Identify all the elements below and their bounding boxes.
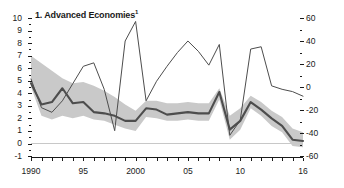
y-axis-right-tick — [300, 110, 304, 111]
y-axis-left-label: 4 — [17, 89, 22, 98]
y-axis-left-tick — [28, 118, 32, 119]
x-axis-tick — [198, 158, 199, 161]
y-axis-left-tick — [28, 131, 32, 132]
x-axis-label: 05 — [174, 167, 202, 176]
x-axis-tick — [125, 158, 126, 161]
y-axis-left-label: 5 — [17, 76, 22, 85]
x-axis-label: 10 — [226, 167, 254, 176]
x-axis-tick — [219, 158, 220, 161]
y-axis-left-minor-tick — [29, 125, 31, 126]
x-axis-tick — [272, 158, 273, 161]
y-axis-left-label: 3 — [17, 101, 22, 110]
y-axis-left-minor-tick — [29, 87, 31, 88]
y-axis-right-tick — [300, 156, 304, 157]
y-axis-right-label: 40 — [306, 37, 315, 46]
x-axis-label: 2000 — [122, 167, 150, 176]
x-axis-tick — [73, 158, 74, 161]
y-axis-left-tick — [28, 156, 32, 157]
y-axis-left-minor-tick — [29, 137, 31, 138]
y-axis-left-tick — [28, 144, 32, 145]
x-axis-tick — [178, 158, 179, 161]
y-axis-left-label: -1 — [14, 152, 22, 161]
y-axis-right-tick — [300, 87, 304, 88]
chart-panel: 1. Advanced Economies1 109876543210-1604… — [0, 0, 344, 188]
y-axis-left-minor-tick — [29, 49, 31, 50]
x-axis-tick — [240, 158, 241, 161]
x-axis-tick — [94, 158, 95, 161]
y-axis-left-tick — [28, 81, 32, 82]
y-axis-right-label: 60 — [306, 14, 315, 23]
y-axis-left-label: 6 — [17, 64, 22, 73]
x-axis-tick — [146, 158, 147, 161]
y-axis-left-label: 9 — [17, 26, 22, 35]
y-axis-left-label: 0 — [17, 139, 22, 148]
y-axis-right-minor-tick — [300, 122, 302, 123]
x-axis-tick — [261, 158, 262, 161]
x-axis-label: 1990 — [17, 167, 45, 176]
y-axis-left-minor-tick — [29, 150, 31, 151]
x-axis-tick — [293, 158, 294, 161]
y-axis-right-minor-tick — [300, 53, 302, 54]
y-axis-right-label: 20 — [306, 60, 315, 69]
y-axis-right-label: -20 — [306, 106, 318, 115]
zero-reference-line — [31, 143, 303, 144]
y-axis-left-tick — [28, 93, 32, 94]
y-axis-left-tick — [28, 56, 32, 57]
x-axis-label: 16 — [289, 167, 317, 176]
y-axis-left-tick — [28, 18, 32, 19]
y-axis-right-tick — [300, 41, 304, 42]
y-axis-right-label: -40 — [306, 129, 318, 138]
x-axis-tick — [42, 158, 43, 161]
x-axis-tick — [209, 158, 210, 161]
y-axis-left-label: 8 — [17, 39, 22, 48]
y-axis-left-minor-tick — [29, 37, 31, 38]
x-axis-tick — [52, 158, 53, 161]
x-axis-tick — [136, 158, 137, 161]
x-axis-tick — [83, 158, 84, 161]
y-axis-right-minor-tick — [300, 99, 302, 100]
y-axis-left-minor-tick — [29, 75, 31, 76]
y-axis-left-minor-tick — [29, 100, 31, 101]
x-axis-tick — [230, 158, 231, 161]
x-axis-tick — [62, 158, 63, 161]
y-axis-left-minor-tick — [29, 112, 31, 113]
x-axis-tick — [115, 158, 116, 161]
y-axis-right-tick — [300, 64, 304, 65]
y-axis-left-minor-tick — [29, 62, 31, 63]
y-axis-left-label: 2 — [17, 114, 22, 123]
x-axis-tick — [303, 158, 304, 161]
y-axis-right-label: -60 — [306, 152, 318, 161]
y-axis-right-tick — [300, 18, 304, 19]
x-axis-tick — [251, 158, 252, 161]
y-axis-left-tick — [28, 106, 32, 107]
y-axis-left-label: 1 — [17, 126, 22, 135]
y-axis-right-minor-tick — [300, 145, 302, 146]
x-axis-tick — [282, 158, 283, 161]
x-axis-tick — [157, 158, 158, 161]
y-axis-left-minor-tick — [29, 24, 31, 25]
y-axis-right-minor-tick — [300, 30, 302, 31]
y-axis-left-tick — [28, 43, 32, 44]
x-axis-label: 95 — [69, 167, 97, 176]
y-axis-left-label: 10 — [13, 14, 22, 23]
x-axis-tick — [188, 158, 189, 161]
y-axis-right-label: 0 — [306, 83, 311, 92]
y-axis-left-label: 7 — [17, 51, 22, 60]
x-axis-tick — [104, 158, 105, 161]
y-axis-left-tick — [28, 68, 32, 69]
x-axis-tick — [167, 158, 168, 161]
y-axis-right-tick — [300, 133, 304, 134]
x-axis-tick — [31, 158, 32, 161]
y-axis-left-tick — [28, 31, 32, 32]
y-axis-right-minor-tick — [300, 76, 302, 77]
